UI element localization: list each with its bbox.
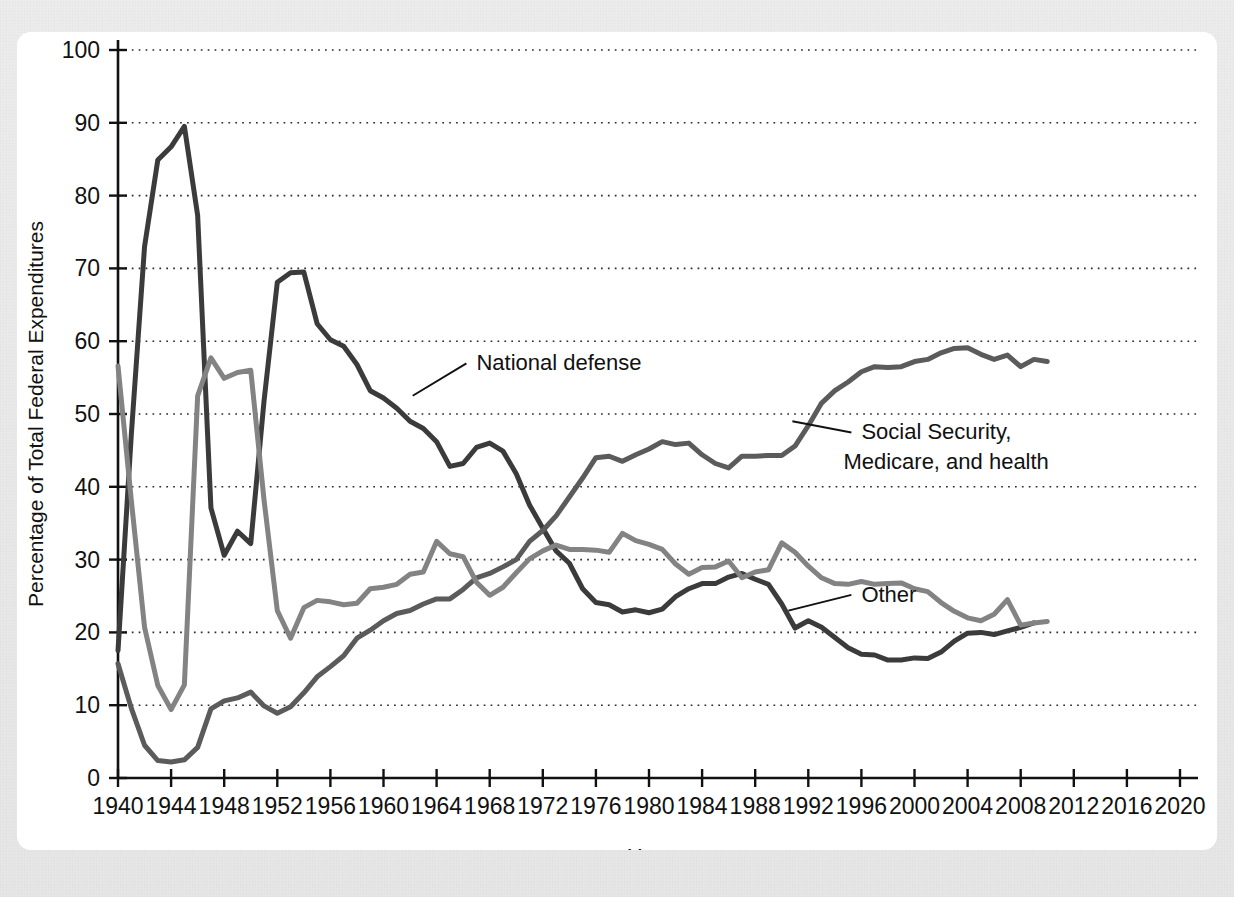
annotation-leader-line xyxy=(792,421,851,432)
y-tick-label: 20 xyxy=(74,619,100,645)
x-tick-label: 1984 xyxy=(677,793,728,819)
gridlines-group xyxy=(118,50,1198,705)
x-tick-label: 1968 xyxy=(464,793,515,819)
x-tick-label: 1972 xyxy=(517,793,568,819)
annotation-leader-line xyxy=(413,363,467,395)
x-tick-label: 1976 xyxy=(570,793,621,819)
y-tick-label: 70 xyxy=(74,255,100,281)
y-tick-label: 100 xyxy=(62,37,100,63)
chart-card: 1940194419481952195619601964196819721976… xyxy=(17,32,1217,850)
x-tick-label: 2004 xyxy=(942,793,993,819)
x-tick-label: 1988 xyxy=(730,793,781,819)
series-annotation-label: Other xyxy=(861,582,916,607)
x-tick-label: 2008 xyxy=(995,793,1046,819)
axes-group xyxy=(118,40,1198,778)
x-tick-label: 1980 xyxy=(623,793,674,819)
faded-header-text xyxy=(130,0,650,10)
x-tick-label: 2020 xyxy=(1154,793,1205,819)
y-tick-label: 0 xyxy=(87,765,100,791)
x-tick-label: 1944 xyxy=(146,793,197,819)
series-annotation-label: Medicare, and health xyxy=(843,449,1048,474)
y-tick-label: 30 xyxy=(74,547,100,573)
x-tick-label: 1952 xyxy=(252,793,303,819)
x-tick-label: 1960 xyxy=(358,793,409,819)
x-tick-label: 1964 xyxy=(411,793,462,819)
annotation-leaders-group xyxy=(413,363,852,610)
x-tick-label: 1940 xyxy=(92,793,143,819)
series-line xyxy=(118,348,1047,762)
y-tick-labels-group: 0102030405060708090100 xyxy=(62,37,100,791)
x-tick-label: 1948 xyxy=(199,793,250,819)
y-tick-label: 90 xyxy=(74,110,100,136)
x-tick-label: 1956 xyxy=(305,793,356,819)
series-annotation-label: Social Security, xyxy=(861,419,1011,444)
x-tick-label: 2012 xyxy=(1048,793,1099,819)
series-annotation-label: National defense xyxy=(476,350,641,375)
x-axis-title: Year xyxy=(628,844,670,850)
x-tickmarks-group xyxy=(118,769,1180,787)
x-tick-label: 1996 xyxy=(836,793,887,819)
y-tick-label: 80 xyxy=(74,183,100,209)
x-tick-labels-group: 1940194419481952195619601964196819721976… xyxy=(92,793,1205,819)
y-tick-label: 40 xyxy=(74,474,100,500)
y-axis-title: Percentage of Total Federal Expenditures xyxy=(24,221,47,607)
y-tick-label: 60 xyxy=(74,328,100,354)
y-tick-label: 50 xyxy=(74,401,100,427)
x-tick-label: 1992 xyxy=(783,793,834,819)
annotation-leader-line xyxy=(788,595,851,611)
y-tick-label: 10 xyxy=(74,692,100,718)
x-tick-label: 2016 xyxy=(1101,793,1152,819)
x-tick-label: 2000 xyxy=(889,793,940,819)
expenditures-line-chart: 1940194419481952195619601964196819721976… xyxy=(17,32,1217,850)
